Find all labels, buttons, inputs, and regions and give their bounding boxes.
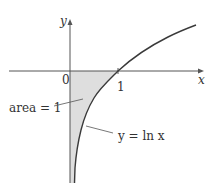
y-axis-label: y [59, 14, 67, 28]
x-tick-label-1: 1 [117, 80, 125, 94]
ln-graph: y x 0 1 area = 1 y = ln x [0, 0, 211, 190]
y-axis-arrow-icon [68, 19, 73, 25]
curve-leader-line [86, 126, 113, 133]
x-axis-label: x [198, 73, 205, 87]
area-label: area = 1 [9, 101, 61, 115]
shaded-area [70, 71, 118, 183]
origin-label: 0 [62, 73, 70, 87]
curve-label: y = ln x [117, 129, 165, 143]
ln-curve [75, 25, 197, 183]
